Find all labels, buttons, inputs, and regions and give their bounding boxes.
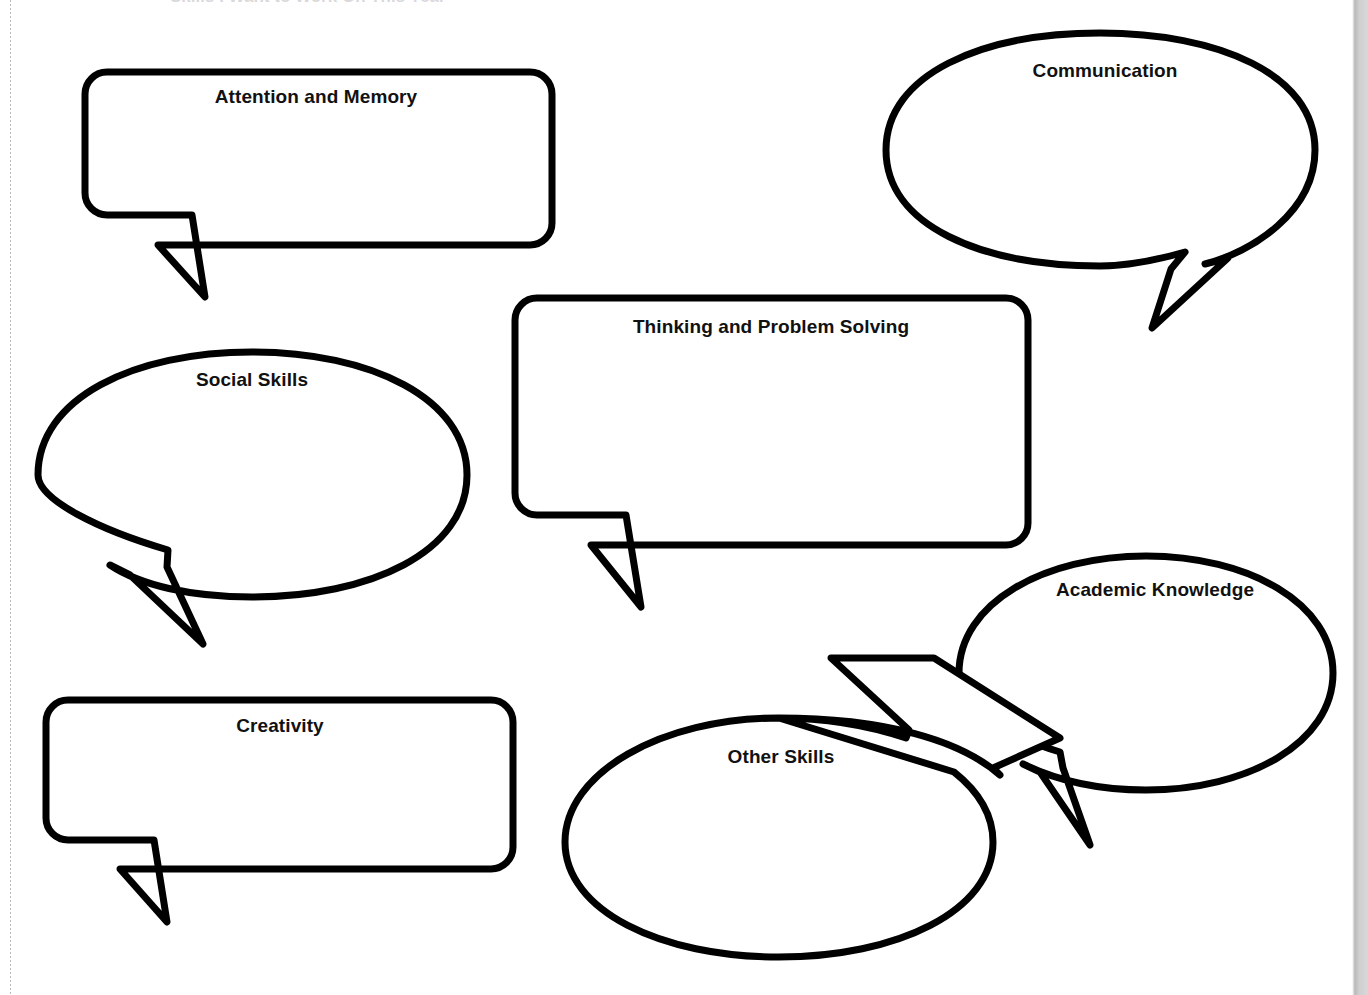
- bubble-label-academic-knowledge: Academic Knowledge: [1056, 579, 1254, 601]
- bubble-other-skills[interactable]: [565, 658, 1060, 957]
- bubble-label-attention-and-memory: Attention and Memory: [215, 86, 418, 108]
- worksheet-page: Skills I Want to Work On This Year Atten…: [0, 0, 1368, 995]
- page-edge-right: [1346, 0, 1368, 995]
- bubble-label-thinking-and-problem-solving: Thinking and Problem Solving: [633, 316, 909, 338]
- page-edge-left: [10, 0, 11, 995]
- bubble-label-creativity: Creativity: [236, 715, 324, 737]
- bubble-social-skills[interactable]: [38, 352, 467, 644]
- bubble-label-social-skills: Social Skills: [196, 369, 308, 391]
- bubbles-canvas: [0, 0, 1368, 995]
- bubble-thinking-and-problem-solving[interactable]: [515, 298, 1028, 607]
- bubble-label-other-skills: Other Skills: [728, 746, 835, 768]
- bubble-label-communication: Communication: [1033, 60, 1178, 82]
